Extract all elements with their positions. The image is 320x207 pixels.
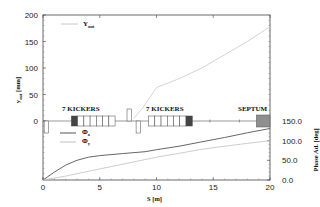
y-left-tick-label: 200 — [25, 11, 39, 20]
x-tick-label: 20 — [266, 183, 275, 192]
legend-label-phi-x: Φx — [82, 128, 91, 137]
kicker-magnet — [155, 116, 161, 126]
series-phi-x-line — [43, 129, 270, 181]
x-tick-label: 0 — [41, 183, 46, 192]
septum-magnet — [256, 115, 270, 127]
kicker-magnet — [96, 116, 102, 126]
kicker-magnet — [78, 116, 84, 126]
plot-border — [43, 15, 270, 180]
kickers-label-2: 7 KICKERS — [146, 105, 184, 113]
kicker-magnet — [161, 116, 167, 126]
kicker-magnet — [103, 116, 109, 126]
y-right-tick-label: 50.0 — [282, 156, 298, 165]
quadrupole-focusing — [127, 109, 132, 121]
kicker-magnet — [109, 116, 115, 126]
legend-label-y-out: Yout — [83, 20, 95, 29]
plot-frame — [43, 15, 270, 180]
data-series — [43, 27, 270, 180]
kicker-magnet — [167, 116, 173, 126]
kicker-magnet — [174, 116, 180, 126]
beam-trajectory-chart: 051015200501001502000.050.0100.0150.0 7 … — [0, 0, 320, 207]
kicker-magnet — [186, 116, 192, 126]
septum-label: SEPTUM — [238, 105, 268, 113]
kicker-magnet — [149, 116, 155, 126]
x-tick-label: 10 — [152, 183, 161, 192]
kicker-magnet — [90, 116, 96, 126]
kicker-magnet — [84, 116, 90, 126]
quadrupole-defocusing — [44, 121, 49, 133]
y-left-tick-label: 50 — [29, 91, 38, 100]
y-left-tick-label: 0 — [34, 117, 39, 126]
y-right-axis-title: Phase Ad. [deg] — [312, 128, 320, 171]
x-axis-title: S [m] — [147, 195, 162, 203]
y-right-tick-label: 100.0 — [282, 137, 303, 146]
legend-label-phi-y: Φy — [82, 137, 91, 146]
y-right-tick-label: 150.0 — [282, 117, 303, 126]
quadrupole-defocusing — [136, 121, 141, 133]
y-right-tick-label: 0.0 — [282, 176, 294, 185]
kickers-label-1: 7 KICKERS — [62, 105, 100, 113]
y-left-axis-title: yout [mm] — [14, 77, 23, 103]
kicker-magnet — [71, 116, 77, 126]
x-tick-label: 5 — [98, 183, 103, 192]
x-tick-label: 15 — [209, 183, 218, 192]
y-left-tick-label: 150 — [25, 38, 39, 47]
kicker-magnet — [180, 116, 186, 126]
y-left-tick-label: 100 — [25, 64, 39, 73]
